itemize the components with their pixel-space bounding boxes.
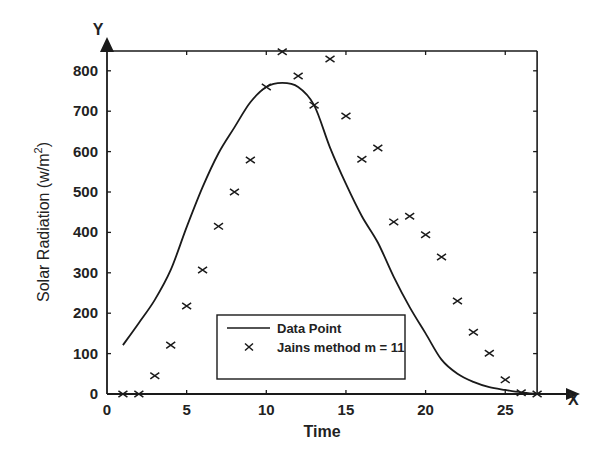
x-marker xyxy=(246,157,255,163)
x-tick-label: 20 xyxy=(417,401,434,418)
x-marker xyxy=(341,113,350,119)
x-marker xyxy=(294,73,303,79)
x-marker xyxy=(469,329,478,335)
y-axis-title: Solar Radiation (w/m2) xyxy=(32,142,52,302)
x-marker xyxy=(310,102,319,108)
x-tick-label: 10 xyxy=(258,401,275,418)
x-marker xyxy=(405,213,414,219)
x-axis-title: Time xyxy=(303,423,340,440)
y-tick-label: 300 xyxy=(73,264,98,281)
x-marker xyxy=(373,145,382,151)
chart: 05101520250100200300400500600700800 Data… xyxy=(0,0,609,458)
x-marker xyxy=(262,84,271,90)
x-marker xyxy=(501,377,510,383)
y-tick-label: 400 xyxy=(73,223,98,240)
legend-label-jains-method: Jains method m = 11 xyxy=(277,340,405,355)
x-marker xyxy=(437,254,446,260)
x-marker xyxy=(166,342,175,348)
y-tick-label: 700 xyxy=(73,102,98,119)
x-tick-label: 25 xyxy=(497,401,514,418)
x-marker xyxy=(453,298,462,304)
x-marker xyxy=(421,232,430,238)
y-axis-title-close: ) xyxy=(35,142,52,147)
x-tick-label: 0 xyxy=(103,401,111,418)
x-marker xyxy=(150,373,159,379)
y-tick-label: 100 xyxy=(73,345,98,362)
x-tick-label: 15 xyxy=(338,401,355,418)
x-marker xyxy=(230,189,239,195)
x-tick-label: 5 xyxy=(182,401,190,418)
x-marker xyxy=(198,267,207,273)
y-axis-arrowhead xyxy=(100,37,114,52)
y-tick-label: 800 xyxy=(73,62,98,79)
x-marker xyxy=(326,56,335,62)
x-marker xyxy=(389,219,398,225)
y-axis-title-main: Solar Radiation (w/m xyxy=(35,153,52,302)
x-marker xyxy=(485,350,494,356)
y-tick-label: 0 xyxy=(90,385,98,402)
y-tick-label: 200 xyxy=(73,304,98,321)
x-axis-arrow-label: X xyxy=(568,391,579,408)
legend: Data PointJains method m = 11 xyxy=(217,315,405,379)
y-tick-label: 500 xyxy=(73,183,98,200)
x-marker xyxy=(214,223,223,229)
x-marker xyxy=(278,49,287,55)
y-axis-arrow-label: Y xyxy=(93,21,104,38)
x-marker xyxy=(182,303,191,309)
y-tick-label: 600 xyxy=(73,143,98,160)
x-marker xyxy=(357,156,366,162)
legend-label-data-point: Data Point xyxy=(277,321,342,336)
